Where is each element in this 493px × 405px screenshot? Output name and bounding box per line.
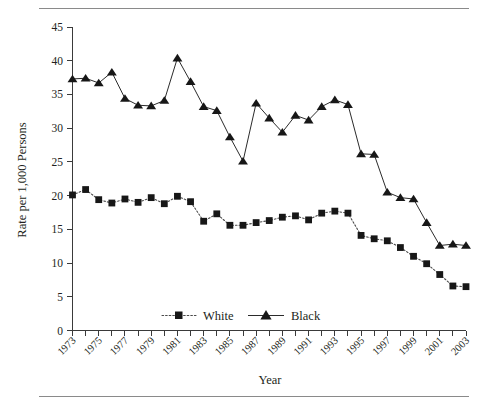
- data-point-black: [81, 74, 91, 82]
- data-point-black: [238, 157, 248, 165]
- data-point-black: [251, 99, 261, 107]
- data-point-black: [212, 106, 222, 114]
- data-point-white: [292, 212, 299, 219]
- data-point-white: [371, 235, 378, 242]
- data-point-black: [225, 133, 235, 141]
- x-tick-label: 1995: [344, 335, 367, 358]
- y-tick-label: 30: [52, 122, 64, 134]
- x-tick-label: 1993: [318, 335, 341, 358]
- y-tick-label: 35: [52, 88, 64, 100]
- x-tick-label: 1983: [186, 335, 209, 358]
- data-point-white: [397, 244, 404, 251]
- x-axis: 1973197519771979198119831985198719891991…: [55, 331, 471, 358]
- x-tick-label: 1973: [55, 335, 78, 358]
- y-axis: 051015202530354045: [52, 21, 73, 337]
- x-axis-title: Year: [258, 373, 282, 387]
- data-point-white: [463, 283, 470, 290]
- legend-item-black: Black: [248, 309, 321, 323]
- data-point-white: [213, 210, 220, 217]
- x-tick-label: 1997: [370, 335, 393, 358]
- y-tick-label: 10: [52, 257, 64, 269]
- line-chart: 051015202530354045 197319751977197919811…: [0, 0, 493, 405]
- data-point-white: [331, 208, 338, 215]
- x-tick-label: 1989: [265, 335, 288, 358]
- data-point-white: [449, 283, 456, 290]
- x-tick-label: 1979: [134, 335, 157, 358]
- chart-legend: White Black: [162, 309, 321, 323]
- data-point-black: [120, 94, 130, 102]
- y-tick-label: 25: [52, 156, 64, 168]
- data-point-black: [264, 114, 274, 122]
- x-tick-label: 1985: [213, 335, 236, 358]
- data-point-black: [186, 77, 196, 85]
- legend-label-black: Black: [291, 309, 321, 323]
- x-tick-label: 1975: [82, 335, 105, 358]
- data-point-black: [291, 111, 301, 119]
- data-point-white: [305, 216, 312, 223]
- data-point-black: [133, 101, 143, 109]
- data-point-white: [318, 210, 325, 217]
- data-point-white: [122, 196, 129, 203]
- data-point-white: [253, 219, 260, 226]
- data-point-black: [395, 193, 405, 201]
- x-tick-label: 2001: [423, 335, 446, 358]
- data-point-white: [161, 200, 168, 207]
- y-tick-label: 15: [52, 223, 64, 235]
- data-point-white: [95, 196, 102, 203]
- data-point-white: [174, 193, 181, 200]
- data-point-black: [172, 54, 182, 62]
- x-tick-label: 1987: [239, 335, 262, 358]
- data-point-white: [82, 186, 89, 193]
- x-tick-label: 2003: [449, 335, 472, 358]
- data-point-white: [410, 253, 417, 260]
- y-tick-label: 45: [52, 21, 64, 33]
- data-point-white: [240, 222, 247, 229]
- data-point-black: [343, 100, 353, 108]
- data-point-white: [200, 218, 207, 225]
- data-point-white: [345, 210, 352, 217]
- data-point-black: [448, 240, 458, 248]
- data-point-white: [148, 194, 155, 201]
- data-point-white: [69, 192, 76, 199]
- data-point-white: [227, 222, 234, 229]
- legend-item-white: White: [162, 309, 234, 323]
- data-point-white: [108, 200, 115, 207]
- y-axis-title: Rate per 1,000 Persons: [15, 122, 29, 237]
- legend-label-white: White: [203, 309, 234, 323]
- x-tick-label: 1977: [108, 335, 131, 358]
- data-point-black: [159, 96, 169, 104]
- y-tick-label: 40: [52, 55, 64, 67]
- data-point-white: [358, 232, 365, 239]
- data-point-white: [384, 237, 391, 244]
- data-point-white: [279, 214, 286, 221]
- y-tick-label: 5: [57, 291, 63, 303]
- data-point-black: [422, 218, 432, 226]
- data-point-white: [135, 199, 142, 206]
- y-tick-label: 0: [57, 325, 63, 337]
- data-point-white: [423, 260, 430, 267]
- x-tick-label: 1999: [396, 335, 419, 358]
- data-point-black: [199, 102, 209, 110]
- data-point-black: [317, 102, 327, 110]
- data-point-white: [187, 198, 194, 205]
- y-tick-label: 20: [52, 190, 64, 202]
- data-point-black: [107, 68, 117, 76]
- data-point-black: [382, 188, 392, 196]
- data-point-white: [266, 217, 273, 224]
- data-point-white: [436, 271, 443, 278]
- x-tick-label: 1991: [291, 335, 314, 358]
- x-tick-label: 1981: [160, 335, 183, 358]
- data-point-black: [330, 96, 340, 104]
- data-point-black: [356, 149, 366, 157]
